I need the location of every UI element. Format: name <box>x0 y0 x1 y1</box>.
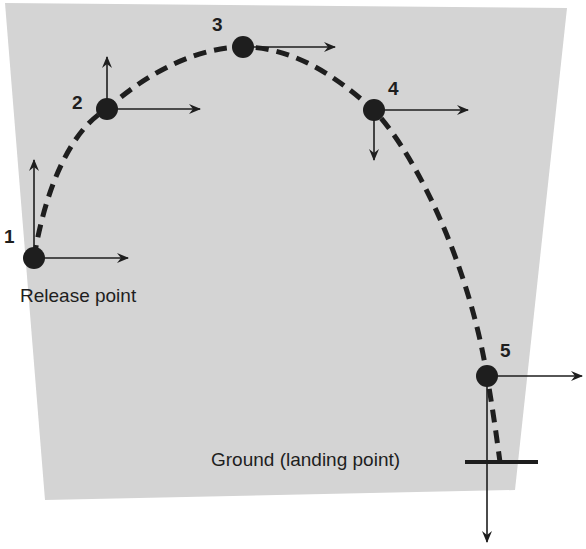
point-4-label: 4 <box>388 78 399 100</box>
point-2-label: 2 <box>72 92 83 114</box>
point-1-label: 1 <box>4 226 15 248</box>
point-3-label: 3 <box>212 14 223 36</box>
ground-caption: Ground (landing point) <box>211 449 400 471</box>
release-point-caption: Release point <box>20 285 136 307</box>
point-3-dot <box>232 36 254 58</box>
point-5-label: 5 <box>500 340 511 362</box>
background-panel <box>5 3 567 500</box>
point-1-dot <box>23 247 45 269</box>
point-4-dot <box>363 99 385 121</box>
point-2-dot <box>96 98 118 120</box>
point-5-dot <box>476 365 498 387</box>
